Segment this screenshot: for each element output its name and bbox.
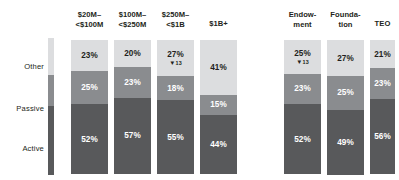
column-header-col-250m-1b: $250M–<$1B [157,10,194,29]
column-header-line-1: $1B+ [200,19,237,29]
bar-col-100m-250m[interactable]: 20%23%57% [114,40,151,174]
segment-active-col-250m-1b[interactable]: 55% [157,100,194,174]
delta-value-label: 13 [175,60,181,66]
delta-value-label: 13 [302,59,308,65]
segment-value-label: 20% [124,49,141,58]
segment-value-label: 23% [374,79,391,88]
segment-value-label: 23% [124,78,141,87]
column-header-line-1: TEO [370,19,395,29]
segment-active-col-20m-100m[interactable]: 52% [71,104,108,174]
column-header-line-2: <$250M [114,20,151,30]
segment-value-label: 21% [374,50,391,59]
segment-active-col-endowment[interactable]: 52% [284,104,321,174]
triangle-down-icon: ▼ [296,58,302,65]
segment-value-label: 18% [167,84,184,93]
legend-swatch-passive [48,75,54,107]
segment-value-label: 52% [81,135,98,144]
column-header-col-endowment: Endow-ment [284,10,321,29]
segment-text-group: 49% [337,138,354,147]
legend-label-other: Other [0,62,44,71]
segment-value-label: 25% [337,88,354,97]
column-header-line-2: tion [327,20,364,30]
column-header-line-1: $20M– [71,10,108,20]
segment-passive-col-250m-1b[interactable]: 18% [157,76,194,100]
segment-other-col-teo[interactable]: 21% [370,40,395,68]
segment-value-label: 27% [337,54,354,63]
segment-text-group: 23% [124,78,141,87]
segment-active-col-100m-250m[interactable]: 57% [114,98,151,174]
segment-text-group: 23% [374,79,391,88]
segment-other-col-20m-100m[interactable]: 23% [71,40,108,71]
column-header-line-1: Founda- [327,10,364,20]
segment-active-col-1b-plus[interactable]: 44% [200,115,237,174]
segment-value-label: 55% [167,133,184,142]
delta-annotation: ▼13 [169,60,182,66]
segment-active-col-foundation[interactable]: 49% [327,110,364,176]
legend-swatch-active [48,106,54,175]
segment-other-col-1b-plus[interactable]: 41% [200,40,237,95]
column-header-col-100m-250m: $100M–<$250M [114,10,151,29]
legend-swatch-other [48,38,54,75]
segment-value-label: 56% [374,132,391,141]
column-header-line-2: <$100M [71,20,108,30]
segment-value-label: 23% [81,51,98,60]
segment-value-label: 25% [81,83,98,92]
column-header-col-foundation: Founda-tion [327,10,364,29]
segment-text-group: 15% [210,100,227,109]
column-header-col-1b-plus: $1B+ [200,19,237,29]
bar-col-teo[interactable]: 21%23%56% [370,40,395,174]
legend-label-passive: Passive [0,104,44,113]
segment-passive-col-foundation[interactable]: 25% [327,76,364,110]
segment-value-label: 49% [337,138,354,147]
bar-col-endowment[interactable]: 25%▼1323%52% [284,40,321,174]
segment-text-group: 25% [81,83,98,92]
segment-text-group: 21% [374,50,391,59]
bar-col-foundation[interactable]: 27%25%49% [327,40,364,174]
segment-passive-col-1b-plus[interactable]: 15% [200,95,237,115]
column-header-line-2: <$1B [157,20,194,30]
segment-text-group: 18% [167,84,184,93]
legend-label-active: Active [0,144,44,153]
segment-passive-col-20m-100m[interactable]: 25% [71,71,108,105]
segment-other-col-endowment[interactable]: 25%▼13 [284,40,321,74]
triangle-down-icon: ▼ [169,59,175,66]
segment-other-col-250m-1b[interactable]: 27%▼13 [157,40,194,76]
segment-text-group: 20% [124,49,141,58]
segment-passive-col-teo[interactable]: 23% [370,68,395,99]
segment-text-group: 56% [374,132,391,141]
segment-text-group: 52% [294,135,311,144]
legend-key-bar [48,38,54,175]
column-header-line-1: Endow- [284,10,321,20]
segment-value-label: 27% [167,50,184,59]
bar-col-20m-100m[interactable]: 23%25%52% [71,40,108,174]
segment-value-label: 52% [294,135,311,144]
segment-other-col-foundation[interactable]: 27% [327,40,364,76]
segment-value-label: 23% [294,84,311,93]
column-header-line-1: $100M– [114,10,151,20]
segment-text-group: 41% [210,63,227,72]
delta-annotation: ▼13 [296,59,309,65]
segment-text-group: 27%▼13 [167,50,184,66]
segment-value-label: 15% [210,100,227,109]
column-header-line-1: $250M– [157,10,194,20]
segment-text-group: 52% [81,135,98,144]
segment-value-label: 44% [210,140,227,149]
stacked-bar-chart: Other Passive Active $20M–<$100M23%25%52… [0,0,399,180]
segment-text-group: 57% [124,131,141,140]
segment-other-col-100m-250m[interactable]: 20% [114,40,151,67]
bar-col-1b-plus[interactable]: 41%15%44% [200,40,237,174]
segment-value-label: 57% [124,131,141,140]
segment-value-label: 41% [210,63,227,72]
column-header-line-2: ment [284,20,321,30]
segment-text-group: 44% [210,140,227,149]
segment-text-group: 25%▼13 [294,49,311,65]
segment-text-group: 23% [294,84,311,93]
segment-active-col-teo[interactable]: 56% [370,99,395,174]
segment-passive-col-100m-250m[interactable]: 23% [114,67,151,98]
bar-col-250m-1b[interactable]: 27%▼1318%55% [157,40,194,174]
column-header-col-teo: TEO [370,19,395,29]
segment-passive-col-endowment[interactable]: 23% [284,74,321,105]
segment-text-group: 55% [167,133,184,142]
column-header-col-20m-100m: $20M–<$100M [71,10,108,29]
segment-text-group: 27% [337,54,354,63]
